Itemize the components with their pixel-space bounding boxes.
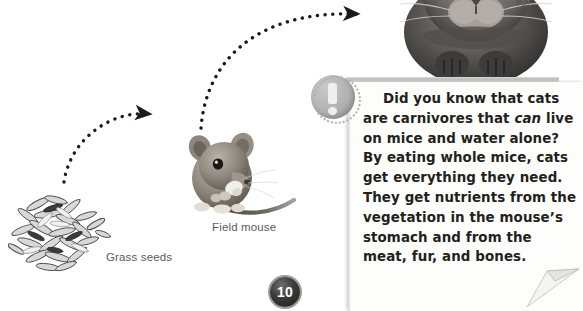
badge-dotted-ring: [313, 76, 361, 124]
note-text: Did you know that cats are carnivores th…: [363, 89, 579, 267]
grass-seeds-photo: [8, 186, 112, 278]
label-field-mouse: Field mouse: [212, 221, 276, 233]
label-grass-seeds: Grass seeds: [106, 251, 172, 263]
page-curl-icon: [525, 265, 581, 309]
arrow-seeds-to-mouse: [64, 114, 150, 182]
exclamation-badge-icon: [313, 76, 361, 124]
page-number-badge: 10: [270, 277, 300, 307]
cat-photo: [392, 0, 560, 80]
fact-note-card: Did you know that cats are carnivores th…: [348, 82, 583, 311]
label-cat: Cat: [512, 0, 530, 8]
field-mouse-photo: [176, 126, 302, 222]
book-page: Cat Field mouse Grass seeds Did you know…: [0, 0, 583, 311]
